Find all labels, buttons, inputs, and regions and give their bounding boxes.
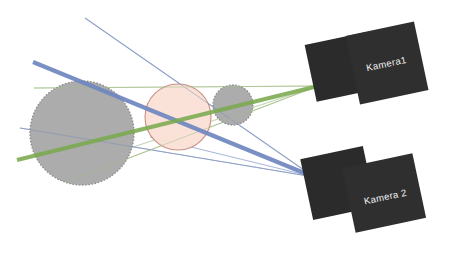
target-group (30, 81, 253, 185)
camera-2[interactable]: Kamera 2 (300, 146, 426, 233)
camera-1[interactable]: Kamera1 (305, 21, 429, 104)
scene-canvas: Kamera1 Kamera 2 (0, 0, 461, 269)
center-sphere (145, 84, 211, 150)
stereo-camera-diagram: Kamera1 Kamera 2 (0, 0, 461, 269)
